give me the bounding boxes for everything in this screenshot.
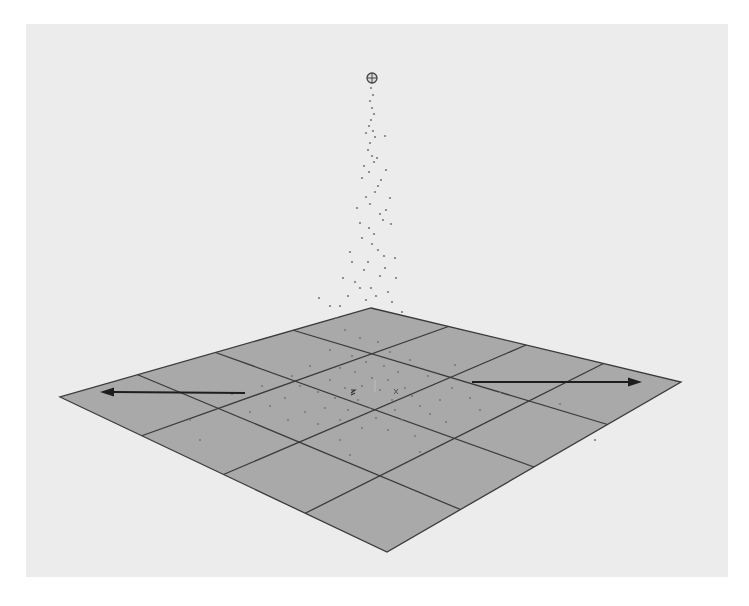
particle-emitter[interactable] (367, 73, 377, 83)
particle (389, 351, 391, 353)
particle (559, 403, 561, 405)
particle (342, 277, 344, 279)
particle (287, 419, 289, 421)
particle (291, 375, 293, 377)
particle (299, 385, 301, 387)
particle (284, 397, 286, 399)
particle (329, 305, 331, 307)
particle (365, 361, 367, 363)
particle (361, 237, 363, 239)
particle (427, 375, 429, 377)
particle (189, 419, 191, 421)
particle (361, 385, 363, 387)
particle (499, 391, 501, 393)
particle (451, 387, 453, 389)
particle (199, 439, 201, 441)
particle (379, 389, 381, 391)
particle (354, 371, 356, 373)
particle (369, 407, 371, 409)
particle (419, 405, 421, 407)
particle (317, 423, 319, 425)
particle (374, 191, 376, 193)
particle (373, 233, 375, 235)
particle (335, 317, 337, 319)
particle (361, 427, 363, 429)
particle (387, 379, 389, 381)
particle (401, 311, 403, 313)
particle (349, 454, 351, 456)
particle (469, 397, 471, 399)
particle (377, 341, 379, 343)
particle (377, 249, 379, 251)
particle (439, 399, 441, 401)
particle (339, 419, 341, 421)
particle (317, 391, 319, 393)
particle (356, 207, 358, 209)
particle (390, 223, 392, 225)
particle (374, 136, 376, 138)
particle (368, 227, 370, 229)
particle (324, 407, 326, 409)
particle (391, 399, 393, 401)
particle (347, 295, 349, 297)
particle (373, 113, 375, 115)
particle (349, 251, 351, 253)
particle (359, 337, 361, 339)
particle (361, 177, 363, 179)
particle (329, 349, 331, 351)
ground-plane-surface[interactable] (60, 308, 681, 552)
particle (334, 397, 336, 399)
particle (387, 429, 389, 431)
particle (371, 107, 373, 109)
particle (369, 100, 371, 102)
particle (394, 257, 396, 259)
particle (376, 157, 378, 159)
arrow-shaft (114, 392, 245, 393)
particle (411, 395, 413, 397)
particle (370, 119, 372, 121)
particle (367, 261, 369, 263)
particle (339, 439, 341, 441)
particle (394, 409, 396, 411)
particle (383, 365, 385, 367)
particle (414, 435, 416, 437)
particle (385, 209, 387, 211)
particle (339, 305, 341, 307)
particle (363, 165, 365, 167)
particle (363, 269, 365, 271)
particle (354, 281, 356, 283)
particle (377, 185, 379, 187)
particle (379, 213, 381, 215)
particle (401, 419, 403, 421)
particle (383, 255, 385, 257)
particle (384, 267, 386, 269)
particle (359, 222, 361, 224)
particle (344, 387, 346, 389)
particle (382, 219, 384, 221)
particle (369, 142, 371, 144)
particle (372, 130, 374, 132)
particle (379, 275, 381, 277)
viewport-scene (0, 0, 749, 606)
particle (594, 439, 596, 441)
particle (372, 94, 374, 96)
particle (395, 277, 397, 279)
particle (419, 451, 421, 453)
particle (371, 155, 373, 157)
particle (359, 287, 361, 289)
ground-plane[interactable] (60, 308, 681, 552)
particle (404, 387, 406, 389)
particle (371, 243, 373, 245)
particle (309, 365, 311, 367)
particle (318, 297, 320, 299)
particle (370, 87, 372, 89)
particle (375, 417, 377, 419)
particle (397, 371, 399, 373)
particle (339, 367, 341, 369)
particle (387, 291, 389, 293)
particle (389, 197, 391, 199)
particle (454, 364, 456, 366)
particle (429, 413, 431, 415)
particle (367, 149, 369, 151)
particle (365, 132, 367, 134)
